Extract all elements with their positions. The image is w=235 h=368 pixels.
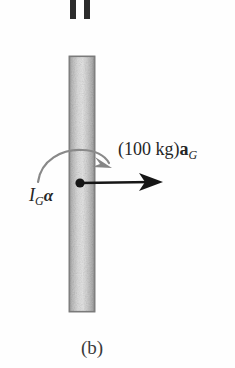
acceleration-label-symbol: a — [180, 139, 189, 159]
moment-label-alpha: α — [44, 186, 53, 205]
figure-panel: (100 kg)aG IGα (b) — [0, 0, 235, 368]
figure-caption: (b) — [0, 338, 184, 357]
acceleration-vector-label: (100 kg)aG — [118, 140, 197, 161]
acceleration-label-prefix: (100 kg) — [118, 139, 180, 159]
moment-label-subscript: G — [35, 194, 44, 208]
cropped-bars-above — [70, 0, 90, 19]
acceleration-label-subscript: G — [189, 148, 198, 162]
figure-graphics — [0, 0, 235, 368]
couple-moment-label: IGα — [29, 186, 53, 207]
